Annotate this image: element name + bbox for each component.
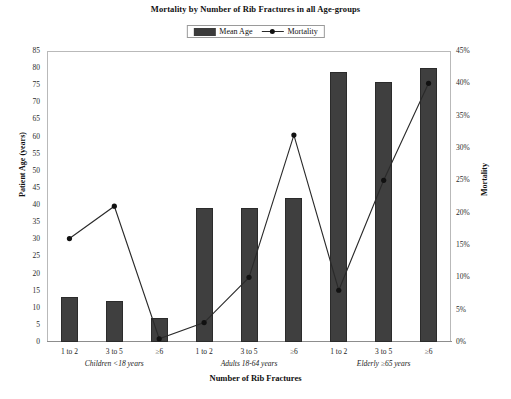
y-tick-left-75: 75	[2, 80, 40, 89]
y-tick-left-5: 5	[2, 320, 40, 329]
y-tick-left-0: 0	[2, 337, 40, 346]
legend-line-marker-icon	[261, 28, 283, 36]
bar-2	[151, 318, 168, 342]
y-tick-left-45: 45	[2, 183, 40, 192]
y-tick-left-60: 60	[2, 132, 40, 141]
y-tick-right-35pct: 35%	[456, 111, 498, 120]
y-tick-left-85: 85	[2, 46, 40, 55]
y-tick-left-65: 65	[2, 114, 40, 123]
y-tick-right-40pct: 40%	[456, 78, 498, 87]
chart-container: Mortality by Number of Rib Fractures in …	[0, 0, 511, 399]
y-tick-left-35: 35	[2, 217, 40, 226]
bar-3	[196, 208, 213, 342]
bar-4	[241, 208, 258, 342]
x-category-label-8: ≥6	[399, 347, 459, 356]
x-group-label-1: Adults 18-64 years	[189, 359, 309, 368]
y-tick-right-25pct: 25%	[456, 175, 498, 184]
y-tick-left-50: 50	[2, 166, 40, 175]
y-tick-left-30: 30	[2, 234, 40, 243]
bar-7	[375, 82, 392, 342]
y-tick-right-45pct: 45%	[456, 46, 498, 55]
y-tick-right-20pct: 20%	[456, 208, 498, 217]
y-tick-left-15: 15	[2, 286, 40, 295]
y-tick-right-5pct: 5%	[456, 305, 498, 314]
bar-0	[61, 297, 78, 342]
legend-item-mean-age: Mean Age	[193, 27, 252, 36]
chart-legend: Mean Age Mortality	[186, 25, 324, 38]
x-axis-title: Number of Rib Fractures	[0, 373, 511, 383]
x-group-label-2: Elderly ≥65 years	[324, 359, 444, 368]
y-tick-left-55: 55	[2, 149, 40, 158]
y-tick-left-70: 70	[2, 97, 40, 106]
chart-title: Mortality by Number of Rib Fractures in …	[0, 4, 511, 14]
bar-1	[106, 301, 123, 342]
y-tick-right-15pct: 15%	[456, 240, 498, 249]
y-tick-right-30pct: 30%	[456, 143, 498, 152]
y-tick-left-10: 10	[2, 303, 40, 312]
x-group-label-0: Children <18 years	[54, 359, 174, 368]
legend-item-mortality: Mortality	[261, 27, 317, 36]
legend-label-mean-age: Mean Age	[219, 27, 252, 36]
bar-5	[285, 198, 302, 342]
legend-label-mortality: Mortality	[287, 27, 317, 36]
y-tick-left-20: 20	[2, 269, 40, 278]
legend-swatch-icon	[193, 28, 215, 36]
y-tick-left-40: 40	[2, 200, 40, 209]
bar-8	[420, 68, 437, 342]
y-tick-right-10pct: 10%	[456, 272, 498, 281]
y-tick-left-25: 25	[2, 251, 40, 260]
y-tick-right-0pct: 0%	[456, 337, 498, 346]
bar-6	[330, 72, 347, 342]
y-tick-left-80: 80	[2, 63, 40, 72]
